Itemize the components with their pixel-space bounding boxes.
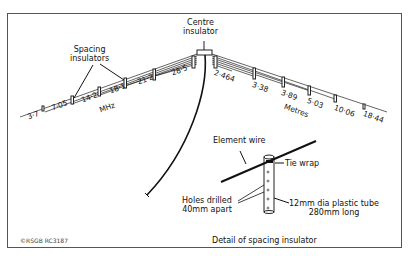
spacing-insulators-label: Spacing insulators [70,45,109,63]
tube-line1: 12mm dia plastic tube [289,199,379,208]
tube-line2: 280mm long [289,208,379,217]
detail-caption: Detail of spacing insulator [212,236,317,245]
centre-insulator-label: Centre insulator [183,18,218,36]
antenna-drawing [0,0,409,256]
element-wire-label: Element wire [213,136,265,145]
plastic-tube [264,157,274,212]
tube-label: 12mm dia plastic tube 280mm long [289,199,379,217]
spacing-insulators-right [214,56,365,109]
right-element-wires [212,54,387,112]
centre-label-line1: Centre [183,18,218,27]
holes-line2: 40mm apart [182,205,232,214]
centre-label-line2: insulator [183,27,218,36]
centre-insulator [197,50,212,55]
tie-wrap-label: Tie wrap [285,159,319,168]
spacing-label-line2: insulators [70,54,109,63]
holes-line1: Holes drilled [182,196,232,205]
spacing-label-line1: Spacing [70,45,109,54]
holes-label: Holes drilled 40mm apart [182,196,232,214]
copyright-label: ©RSGB RC3187 [20,236,68,245]
